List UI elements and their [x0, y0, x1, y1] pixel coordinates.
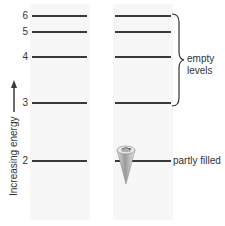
partly-filled-cone-icon: [117, 146, 135, 184]
partly-filled-label: partly filled: [173, 155, 221, 167]
up-arrow-icon: [11, 80, 17, 112]
empty-levels-line1: empty: [187, 53, 214, 65]
empty-levels-label: empty levels: [187, 53, 214, 77]
empty-levels-line2: levels: [187, 65, 214, 77]
curly-brace-icon: [172, 14, 184, 106]
increasing-energy-axis-label: Increasing energy: [8, 117, 19, 197]
